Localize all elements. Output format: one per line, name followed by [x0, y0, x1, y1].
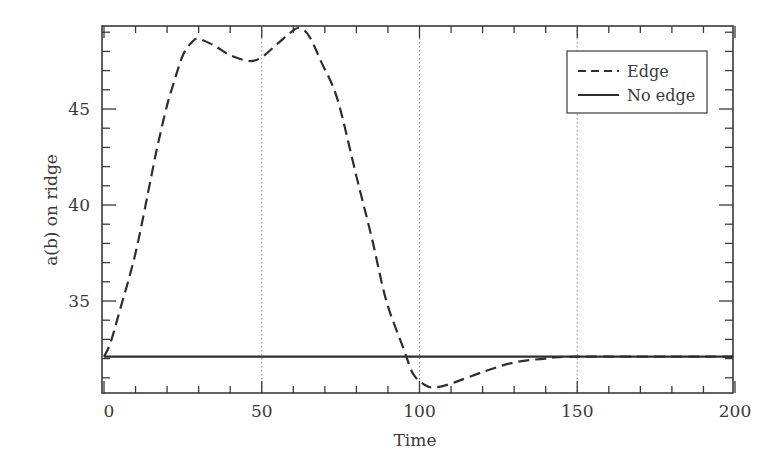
y-tick-label: 40 — [68, 195, 90, 215]
y-tick-label: 45 — [68, 99, 90, 119]
x-tick-label: 50 — [251, 401, 273, 421]
tick-labels: 050100150200354045 — [68, 99, 751, 421]
legend-label-no-edge: No edge — [627, 86, 695, 105]
reference-lines — [262, 26, 578, 393]
y-axis-label: a(b) on ridge — [41, 154, 61, 266]
y-tick-label: 35 — [68, 291, 90, 311]
x-tick-label: 150 — [561, 401, 593, 421]
x-tick-label: 100 — [403, 401, 435, 421]
x-axis-label: Time — [394, 430, 437, 450]
x-tick-label: 200 — [719, 401, 751, 421]
x-tick-label: 0 — [104, 401, 115, 421]
legend-label-edge: Edge — [627, 62, 669, 81]
legend: Edge No edge — [567, 51, 707, 113]
line-chart: 050100150200354045 Time a(b) on ridge Ed… — [0, 0, 774, 472]
